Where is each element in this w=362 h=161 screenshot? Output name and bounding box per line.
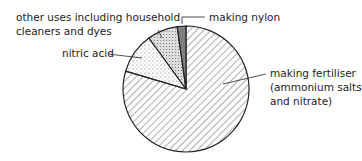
label-other-uses-2: cleaners and dyes — [16, 25, 112, 38]
label-fertiliser-2: (ammonium salts — [270, 81, 362, 94]
label-fertiliser-3: and nitrate) — [270, 95, 332, 108]
pie-chart: other uses including household cleaners … — [0, 0, 362, 161]
label-nitric-acid: nitric acid — [62, 47, 114, 60]
label-fertiliser-1: making fertiliser — [270, 67, 356, 80]
label-nylon: making nylon — [209, 11, 280, 24]
label-other-uses-1: other uses including household — [16, 11, 180, 24]
